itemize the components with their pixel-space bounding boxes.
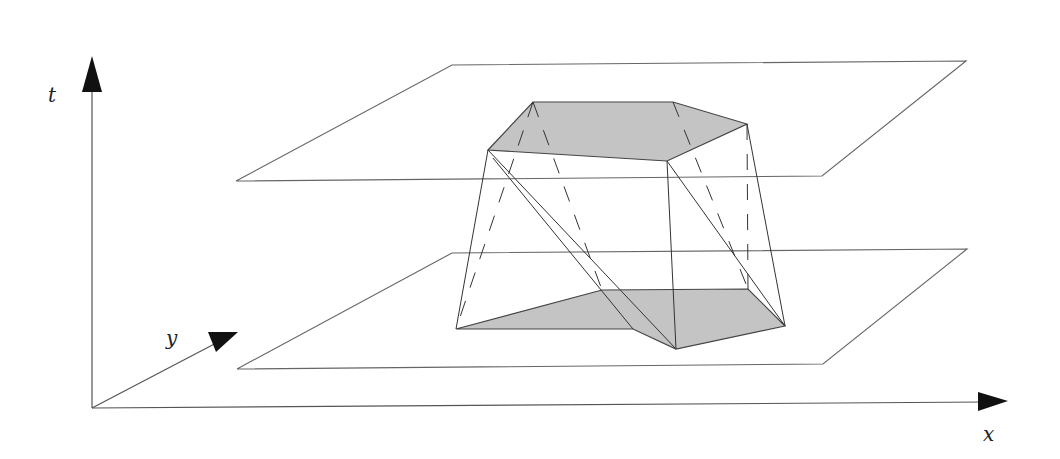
- t-axis-label: t: [48, 83, 57, 107]
- top-polygon-face: [488, 102, 747, 161]
- space-time-diagram: t x y: [0, 0, 1060, 459]
- hidden-edge: [456, 102, 533, 329]
- y-axis-arrow-icon: [208, 332, 238, 352]
- x-axis-label: x: [983, 422, 994, 446]
- visible-edge: [456, 150, 488, 329]
- y-axis: [92, 340, 222, 408]
- hidden-edge: [747, 124, 748, 289]
- x-axis: [92, 402, 985, 408]
- x-axis-arrow-icon: [978, 392, 1008, 411]
- y-axis-label: y: [165, 326, 178, 350]
- t-axis-arrow-icon: [82, 56, 102, 92]
- bottom-polygon-face: [456, 289, 785, 349]
